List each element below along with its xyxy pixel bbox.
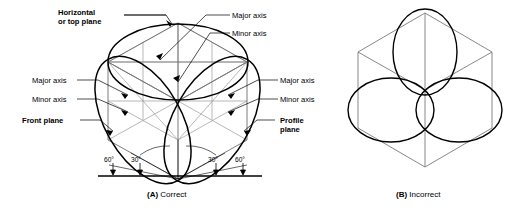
angle-rays-panel-a: [109, 140, 247, 179]
panel-a-drawing: [0, 0, 300, 185]
ellipse-profile-incorrect: [416, 78, 502, 142]
caption-panel-b: (B) Incorrect: [396, 190, 440, 199]
angle-label-outer-left: 60°: [104, 156, 114, 163]
label-profile-plane: Profile plane: [280, 116, 304, 135]
caption-panel-b-label: (B): [396, 190, 407, 199]
label-top-minor-axis: Minor axis: [232, 29, 267, 38]
caption-panel-a-text: Correct: [160, 190, 186, 199]
isometric-ellipse-figure: Horizontal or top plane Major axis Minor…: [0, 0, 521, 221]
label-top-major-axis: Major axis: [232, 11, 267, 20]
label-profile-minor-axis: Minor axis: [280, 95, 315, 104]
label-profile-major-axis: Major axis: [280, 76, 315, 85]
label-front-plane: Front plane: [22, 116, 63, 125]
label-horizontal-top-plane: Horizontal or top plane: [58, 8, 101, 27]
leader-arrowheads-panel-a: [106, 20, 251, 136]
ground-line-panel-a: [98, 163, 262, 176]
caption-panel-a: (A) Correct: [147, 190, 187, 199]
panel-b-drawing: [340, 0, 520, 185]
label-front-major-axis: Major axis: [32, 76, 67, 85]
caption-panel-b-text: Incorrect: [409, 190, 440, 199]
angle-label-inner-right: 30°: [208, 156, 218, 163]
angle-label-inner-left: 30°: [131, 156, 141, 163]
ellipse-front-incorrect: [348, 78, 434, 142]
label-front-minor-axis: Minor axis: [32, 95, 67, 104]
caption-panel-a-label: (A): [147, 190, 158, 199]
angle-label-outer-right: 60°: [235, 156, 245, 163]
